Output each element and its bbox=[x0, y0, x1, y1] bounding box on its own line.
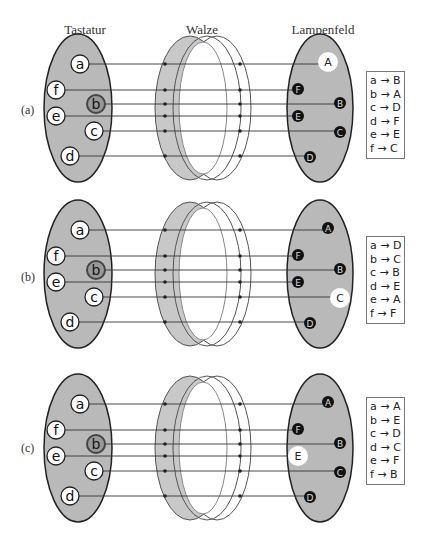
lamp-label: B bbox=[337, 265, 343, 275]
mapping-entry: c → D bbox=[370, 101, 401, 115]
key-label: d bbox=[66, 314, 75, 330]
contact-dot bbox=[238, 62, 242, 66]
lamp-label: E bbox=[295, 278, 301, 288]
contact-dot bbox=[163, 442, 167, 446]
contact-dot bbox=[238, 469, 242, 473]
key-label: c bbox=[90, 289, 98, 305]
mapping-entry: b → A bbox=[370, 88, 401, 102]
contact-dot bbox=[163, 295, 167, 299]
lamp-label: A bbox=[325, 398, 332, 408]
mapping-entry: a → A bbox=[370, 400, 401, 414]
mapping-entry: e → E bbox=[370, 128, 401, 142]
key-label: e bbox=[52, 448, 61, 464]
contact-dot bbox=[163, 129, 167, 133]
contact-dot bbox=[238, 442, 242, 446]
lamp-label: E bbox=[295, 112, 301, 122]
key-label: e bbox=[52, 108, 61, 124]
contact-dot bbox=[238, 88, 242, 92]
key-label: b bbox=[92, 436, 101, 452]
mapping-table-a: a → B b → A c → D d → F e → E f → C bbox=[366, 71, 405, 159]
mapping-entry: f → C bbox=[370, 142, 401, 156]
lamp-label: D bbox=[307, 493, 314, 503]
lamp-label-lit: A bbox=[324, 56, 332, 69]
contact-dot bbox=[238, 102, 242, 106]
mapping-entry: c → B bbox=[370, 266, 401, 280]
contact-dot bbox=[163, 62, 167, 66]
lamp-label: F bbox=[295, 85, 300, 95]
contact-dot bbox=[163, 454, 167, 458]
mapping-entry: a → D bbox=[370, 239, 401, 253]
lamp-label: D bbox=[307, 153, 314, 163]
mapping-table-c: a → A b → E c → D d → C e → F f → B bbox=[366, 397, 405, 485]
lamp-label: B bbox=[337, 99, 343, 109]
key-label: c bbox=[90, 463, 98, 479]
contact-dot bbox=[238, 254, 242, 258]
lamp-label: B bbox=[337, 439, 343, 449]
lamp-label: F bbox=[295, 251, 300, 261]
lamp-label-lit: C bbox=[336, 292, 344, 305]
key-label: d bbox=[66, 148, 75, 164]
mapping-entry: f → B bbox=[370, 468, 401, 482]
contact-dot bbox=[238, 129, 242, 133]
contact-dot bbox=[238, 494, 242, 498]
lamp-label-lit: E bbox=[295, 450, 302, 463]
contact-dot bbox=[238, 402, 242, 406]
key-label: a bbox=[76, 222, 85, 238]
contact-dot bbox=[238, 454, 242, 458]
contact-dot bbox=[238, 428, 242, 432]
mapping-entry: d → F bbox=[370, 115, 401, 129]
key-label: b bbox=[92, 262, 101, 278]
mapping-entry: f → F bbox=[370, 307, 401, 321]
lamp-label: F bbox=[295, 425, 300, 435]
mapping-entry: d → E bbox=[370, 280, 401, 294]
contact-dot bbox=[238, 154, 242, 158]
key-label: b bbox=[92, 96, 101, 112]
contact-dot bbox=[163, 228, 167, 232]
mapping-entry: b → C bbox=[370, 253, 401, 267]
contact-dot bbox=[238, 320, 242, 324]
mapping-entry: c → D bbox=[370, 427, 401, 441]
contact-dot bbox=[163, 494, 167, 498]
contact-dot bbox=[238, 268, 242, 272]
contact-dot bbox=[163, 254, 167, 258]
rotor-inner bbox=[179, 42, 227, 174]
rotor-inner bbox=[179, 382, 227, 514]
contact-dot bbox=[238, 228, 242, 232]
key-label: a bbox=[76, 56, 85, 72]
key-label: d bbox=[66, 488, 75, 504]
row-diagram-b: afbecdAFBECD bbox=[44, 200, 353, 348]
mapping-entry: d → C bbox=[370, 441, 401, 455]
contact-dot bbox=[163, 280, 167, 284]
key-label: e bbox=[52, 274, 61, 290]
contact-dot bbox=[163, 88, 167, 92]
lamp-label: C bbox=[337, 128, 343, 138]
key-label: c bbox=[90, 123, 98, 139]
mapping-entry: b → E bbox=[370, 414, 401, 428]
lamp-label: A bbox=[325, 224, 332, 234]
contact-dot bbox=[163, 154, 167, 158]
contact-dot bbox=[163, 114, 167, 118]
contact-dot bbox=[163, 268, 167, 272]
enigma-rotor-diagram: afbecdAFBECDafbecdAFBECDafbecdAFBECD bbox=[0, 0, 427, 537]
contact-dot bbox=[163, 402, 167, 406]
lamp-label: D bbox=[307, 319, 314, 329]
lamp-label: C bbox=[337, 468, 343, 478]
row-diagram-a: afbecdAFBECD bbox=[44, 34, 353, 182]
row-diagram-c: afbecdAFBECD bbox=[44, 374, 353, 522]
mapping-entry: e → A bbox=[370, 293, 401, 307]
contact-dot bbox=[238, 114, 242, 118]
contact-dot bbox=[163, 469, 167, 473]
contact-dot bbox=[238, 295, 242, 299]
mapping-table-b: a → D b → C c → B d → E e → A f → F bbox=[366, 236, 405, 324]
contact-dot bbox=[163, 428, 167, 432]
rotor-inner bbox=[179, 208, 227, 340]
contact-dot bbox=[163, 320, 167, 324]
mapping-entry: a → B bbox=[370, 74, 401, 88]
mapping-entry: e → F bbox=[370, 454, 401, 468]
contact-dot bbox=[163, 102, 167, 106]
contact-dot bbox=[238, 280, 242, 284]
key-label: a bbox=[76, 396, 85, 412]
